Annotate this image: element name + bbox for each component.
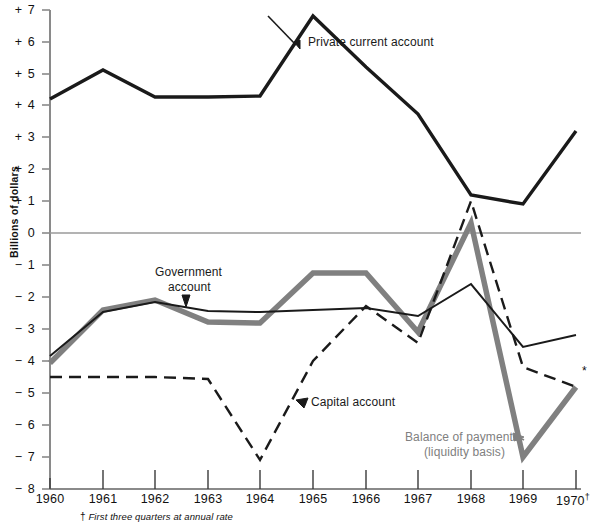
x-tick-label-last: 1970†: [544, 492, 597, 508]
y-tick-label: + 2: [0, 162, 36, 176]
x-tick-label: 1964: [231, 492, 289, 506]
y-tick-label: − 7: [0, 450, 36, 464]
dagger-marker: †: [585, 492, 590, 502]
y-tick-label: − 1: [0, 258, 36, 272]
footnote: † First three quarters at annual rate: [80, 511, 233, 522]
y-tick-label: + 7: [0, 3, 36, 17]
x-tick-label: 1960: [21, 492, 79, 506]
y-tick-label: + 6: [0, 35, 36, 49]
series-balance-of-payments: [50, 223, 576, 457]
x-tick-label-1970: 1970: [556, 494, 585, 508]
y-tick-label: + 1: [0, 194, 36, 208]
chart-plot-area: [0, 0, 597, 532]
footnote-dagger: †: [80, 511, 86, 522]
x-tick-label: 1968: [442, 492, 500, 506]
x-axis-ticks: [50, 470, 576, 489]
y-tick-label: − 4: [0, 354, 36, 368]
y-tick-label: − 6: [0, 418, 36, 432]
x-tick-label: 1966: [337, 492, 395, 506]
y-tick-label: − 3: [0, 322, 36, 336]
x-tick-label: 1961: [74, 492, 132, 506]
y-tick-label: − 5: [0, 386, 36, 400]
y-tick-label: 0: [0, 226, 36, 240]
balance-of-payments-chart: Billions of dollars + 7 + 6 + 5 + 4 + 3 …: [0, 0, 597, 532]
y-tick-label: + 3: [0, 130, 36, 144]
y-tick-label: + 5: [0, 67, 36, 81]
label-private-current-account: Private current account: [308, 35, 434, 49]
asterisk-marker: *: [582, 364, 587, 378]
label-balance-of-payments-line2: (liquidity basis): [424, 445, 505, 460]
label-capital-account: Capital account: [311, 395, 395, 409]
label-government-account-line1: Government: [155, 265, 222, 279]
y-axis-ticks: [42, 10, 50, 489]
label-balance-of-payments-line1: Balance of payments: [405, 430, 519, 445]
x-tick-label: 1962: [126, 492, 184, 506]
y-tick-label: + 4: [0, 98, 36, 112]
x-tick-label: 1967: [389, 492, 447, 506]
label-government-account-line2: account: [168, 280, 211, 294]
annotation-leaders: [182, 16, 308, 408]
x-tick-label: 1963: [179, 492, 237, 506]
y-tick-label: − 2: [0, 290, 36, 304]
footnote-text: First three quarters at annual rate: [88, 511, 233, 522]
x-tick-label: 1965: [284, 492, 342, 506]
